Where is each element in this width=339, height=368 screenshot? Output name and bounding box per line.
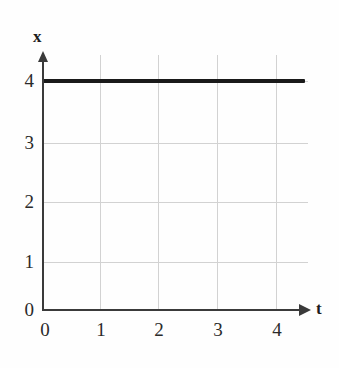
x-tick-label-1: 1	[86, 320, 116, 339]
x-tick-label-2: 2	[144, 320, 174, 339]
x-tick-label-4: 4	[262, 320, 292, 339]
chart-figure: x t 4 3 2 1 0 0 1 2 3 4	[0, 0, 339, 368]
x-axis-tick-labels: 0 1 2 3 4	[0, 0, 339, 368]
x-tick-label-3: 3	[203, 320, 233, 339]
x-tick-label-0: 0	[30, 320, 60, 339]
